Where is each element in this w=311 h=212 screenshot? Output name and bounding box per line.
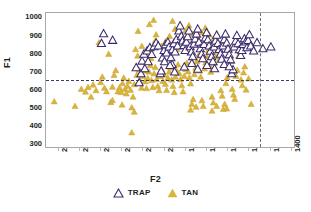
triangle-open-icon — [113, 188, 124, 198]
x-tick-mark — [164, 148, 165, 151]
data-point-tan — [239, 82, 245, 88]
data-point-tan — [218, 87, 224, 93]
data-point-tan — [199, 97, 205, 103]
data-point-trap — [141, 65, 149, 72]
data-point-tan — [132, 46, 138, 52]
data-point-tan — [200, 103, 206, 109]
data-point-trap — [176, 22, 184, 29]
data-point-trap — [109, 36, 117, 43]
legend-label: TRAP — [128, 189, 151, 197]
x-tick-mark — [185, 148, 186, 151]
reference-line-vertical — [260, 13, 261, 147]
data-point-tan — [167, 33, 173, 39]
data-point-tan — [153, 32, 159, 38]
data-point-tan — [129, 130, 135, 136]
data-point-tan — [119, 102, 125, 108]
data-point-tan — [198, 74, 204, 80]
data-point-trap — [245, 31, 253, 38]
x-tick-mark — [270, 148, 271, 151]
x-tick-mark — [291, 148, 292, 151]
data-point-tan — [90, 82, 96, 88]
data-point-tan — [152, 64, 158, 70]
data-point-tan — [135, 28, 141, 34]
x-tick-mark — [58, 148, 59, 151]
data-point-tan — [93, 87, 99, 93]
data-point-trap — [100, 29, 108, 36]
data-point-tan — [72, 103, 78, 109]
data-point-trap — [267, 43, 275, 50]
legend-label: TAN — [182, 189, 199, 197]
data-point-trap — [157, 67, 165, 74]
reference-line-horizontal — [46, 80, 294, 81]
data-point-tan — [130, 94, 136, 100]
data-point-tan — [151, 17, 157, 23]
legend-item-tan[interactable]: TAN — [167, 188, 199, 198]
data-point-tan — [106, 51, 112, 57]
data-point-trap — [233, 31, 241, 38]
data-point-trap — [210, 65, 218, 72]
data-point-tan — [240, 69, 246, 75]
data-point-tan — [229, 86, 235, 92]
data-point-tan — [171, 89, 177, 95]
data-point-tan — [109, 84, 115, 90]
data-point-tan — [210, 99, 216, 105]
data-point-tan — [242, 63, 248, 69]
x-tick-mark — [206, 148, 207, 151]
x-tick-mark — [100, 148, 101, 151]
data-point-tan — [113, 67, 119, 73]
data-point-tan — [88, 94, 94, 100]
plot-area — [45, 12, 295, 148]
data-point-tan — [51, 98, 57, 104]
data-point-tan — [209, 94, 215, 100]
data-point-tan — [78, 86, 84, 92]
data-point-tan — [219, 93, 225, 99]
data-point-tan — [170, 83, 176, 89]
data-point-tan — [139, 43, 145, 49]
x-tick-mark — [227, 148, 228, 151]
data-point-tan — [188, 81, 194, 87]
data-point-trap — [194, 25, 202, 32]
x-tick-mark — [142, 148, 143, 151]
data-point-tan — [180, 88, 186, 94]
data-point-tan — [164, 87, 170, 93]
data-point-trap — [213, 31, 221, 38]
x-tick-mark — [79, 148, 80, 151]
chart-legend: TRAPTAN — [0, 188, 311, 198]
data-point-tan — [155, 83, 161, 89]
data-point-tan — [190, 96, 196, 102]
x-tick-mark — [121, 148, 122, 151]
scatter-plot-figure: F1 F2 3004005006007008009001000 25002400… — [0, 0, 311, 212]
x-tick-mark — [248, 148, 249, 151]
data-point-tan — [99, 74, 105, 80]
data-point-tan — [230, 92, 236, 98]
data-point-tan — [143, 85, 149, 91]
data-point-tan — [179, 82, 185, 88]
data-point-tan — [169, 18, 175, 24]
data-point-tan — [248, 101, 254, 107]
data-point-tan — [151, 71, 157, 77]
triangle-filled-icon — [167, 188, 178, 198]
legend-item-trap[interactable]: TRAP — [113, 188, 151, 198]
data-point-trap — [221, 30, 229, 37]
